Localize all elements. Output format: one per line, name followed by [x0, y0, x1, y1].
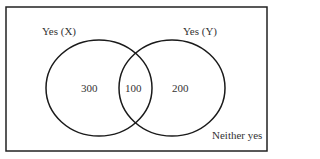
set-x-label: Yes (X)	[42, 25, 76, 37]
outside-label: Neither yes	[212, 129, 262, 141]
intersection-value: 100	[125, 82, 142, 94]
x-only-value: 300	[81, 82, 98, 94]
set-y-label: Yes (Y)	[183, 25, 217, 37]
y-only-value: 200	[172, 82, 189, 94]
